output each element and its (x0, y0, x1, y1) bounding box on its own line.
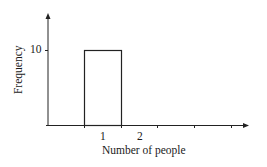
x-axis-label: Number of people (102, 145, 186, 157)
y-axis-arrow (46, 13, 51, 19)
x-tick-label-2: 2 (137, 131, 143, 143)
y-axis-label: Frequency (13, 45, 25, 95)
x-tick-label-1: 1 (100, 131, 106, 143)
y-tick-label-10: 10 (30, 44, 42, 56)
histogram-plot (0, 0, 267, 167)
histogram-bar (85, 51, 122, 126)
x-axis-arrow (243, 123, 249, 128)
